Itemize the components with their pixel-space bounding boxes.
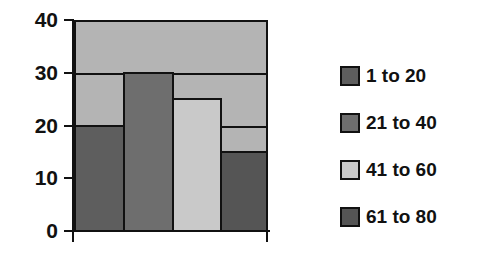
x-axis	[64, 230, 270, 232]
bar-1-to-20	[74, 125, 125, 231]
legend-label: 41 to 60	[366, 159, 437, 181]
ytick-30	[64, 72, 74, 74]
legend-label: 1 to 20	[366, 65, 426, 87]
legend-swatch	[340, 207, 360, 227]
ytick-label-30: 30	[0, 62, 58, 83]
ytick-label-40: 40	[0, 9, 58, 30]
legend-item: 41 to 60	[340, 146, 437, 193]
legend-item: 21 to 40	[340, 99, 437, 146]
bar-41-to-60	[172, 98, 222, 231]
bar-21-to-40	[123, 72, 174, 231]
legend-swatch	[340, 66, 360, 86]
legend-item: 61 to 80	[340, 193, 437, 240]
ytick-label-10: 10	[0, 167, 58, 188]
ytick-label-20: 20	[0, 115, 58, 136]
legend-label: 21 to 40	[366, 112, 437, 134]
legend-label: 61 to 80	[366, 206, 437, 228]
plot-area	[74, 20, 268, 231]
y-axis	[72, 20, 74, 242]
ytick-40	[64, 19, 74, 21]
bar-61-to-80	[220, 151, 268, 231]
ytick-10	[64, 177, 74, 179]
ytick-label-0: 0	[0, 220, 58, 241]
x-axis-end-tick	[266, 230, 268, 242]
legend-swatch	[340, 113, 360, 133]
legend-swatch	[340, 160, 360, 180]
ytick-20	[64, 125, 74, 127]
legend-item: 1 to 20	[340, 52, 437, 99]
legend: 1 to 20 21 to 40 41 to 60 61 to 80	[340, 52, 437, 240]
